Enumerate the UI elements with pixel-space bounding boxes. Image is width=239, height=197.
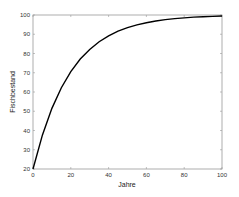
x-tick-label: 0 [31,172,35,178]
y-axis-label: Fischbestand [9,71,16,113]
y-tick-label: 90 [23,31,30,37]
x-tick-label: 20 [67,172,74,178]
x-tick-label: 60 [143,172,150,178]
y-tick-label: 100 [20,12,31,18]
plot-area [33,15,222,169]
y-tick-label: 80 [23,51,30,57]
y-tick-label: 30 [23,147,30,153]
x-tick-label: 80 [181,172,188,178]
chart: 2030405060708090100 020406080100 Jahre F… [0,0,239,197]
x-axis-label: Jahre [118,181,136,188]
y-tick-label: 70 [23,70,30,76]
y-tick-label: 50 [23,108,30,114]
y-tick-label: 40 [23,128,30,134]
x-tick-label: 100 [217,172,228,178]
y-tick-label: 20 [23,166,30,172]
x-tick-label: 40 [105,172,112,178]
y-tick-label: 60 [23,89,30,95]
